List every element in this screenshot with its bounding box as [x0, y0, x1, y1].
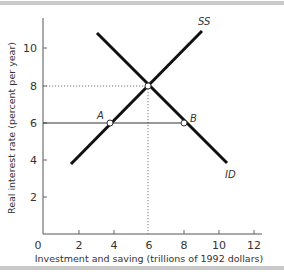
x-tick-10: 10	[212, 239, 226, 252]
ss-curve-label: SS	[198, 16, 211, 27]
point-a-marker	[107, 120, 113, 126]
y-tick-10: 10	[23, 42, 37, 55]
bottom-frame-bar	[0, 266, 284, 270]
y-tick-6: 6	[30, 117, 37, 130]
y-axis-title: Real interest rate (percent per year)	[6, 42, 17, 214]
y-tick-8: 8	[30, 80, 37, 93]
saving-supply-curve	[71, 31, 202, 164]
x-tick-12: 12	[247, 239, 261, 252]
x-tick-4: 4	[111, 239, 118, 252]
id-curve-label: ID	[225, 169, 236, 180]
x-tick-6: 6	[146, 239, 153, 252]
x-tick-0: 0	[35, 239, 42, 252]
y-tick-labels: 10 8 6 4 2	[23, 42, 37, 204]
x-axis-title: Investment and saving (trillions of 1992…	[35, 253, 263, 264]
y-tick-4: 4	[30, 154, 37, 167]
x-tick-8: 8	[181, 239, 188, 252]
x-tick-labels: 0 2 4 6 8 10 12	[35, 239, 262, 252]
equilibrium-marker	[145, 83, 151, 89]
y-tick-2: 2	[30, 191, 37, 204]
point-b-marker	[181, 120, 187, 126]
point-a-label: A	[96, 110, 104, 121]
investment-demand-curve	[97, 33, 227, 163]
x-tick-2: 2	[76, 239, 83, 252]
x-ticks	[79, 230, 254, 234]
chart-canvas: 10 8 6 4 2 0 2 4 6 8 10 12 Investment an…	[0, 0, 284, 274]
point-b-label: B	[190, 113, 197, 124]
